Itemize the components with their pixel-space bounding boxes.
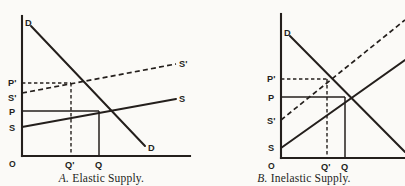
supply-shifted-label: S' [179,59,187,69]
demand-curve [290,36,405,152]
figure-page: P' S' P S O Q' Q D D S' S A. Elastic Sup… [0,0,405,186]
y-label-p: P [9,107,15,117]
y-label-p: P [268,93,274,103]
demand-label-bottom: D [148,143,155,153]
caption-letter-a: A. [59,172,69,184]
demand-label-top: D [284,28,291,38]
x-label-q: Q [341,162,348,172]
caption-elastic-supply: A. Elastic Supply. [0,172,203,184]
x-label-q: Q [95,160,102,170]
caption-text-a: Elastic Supply. [72,172,144,184]
demand-label-top: D [25,18,32,28]
panel-elastic-supply: P' S' P S O Q' Q D D S' S A. Elastic Sup… [0,0,203,186]
caption-text-b: Inelastic Supply. [271,172,351,184]
y-label-s-prime: S' [267,116,275,126]
y-label-p-prime: P' [267,74,275,84]
y-label-p-prime: P' [8,78,16,88]
panel-inelastic-supply: P' P S' S O Q' Q D B. Inelastic Supply. [203,0,405,186]
origin-label: O [9,159,16,169]
chart-inelastic-supply: P' P S' S O Q' Q D [203,0,405,186]
y-label-s-prime: S' [8,93,16,103]
caption-letter-b: B. [257,172,267,184]
supply-curve-original [281,60,405,148]
demand-curve [31,26,145,146]
x-label-q-prime: Q' [65,160,74,170]
y-label-s: S [268,143,274,153]
caption-inelastic-supply: B. Inelastic Supply. [203,172,405,184]
supply-curve-shifted [22,64,176,93]
y-label-s: S [9,123,15,133]
origin-label: O [268,161,275,171]
x-label-q-prime: Q' [321,162,330,172]
supply-original-label: S [179,94,185,104]
chart-elastic-supply: P' S' P S O Q' Q D D S' S [0,0,203,186]
